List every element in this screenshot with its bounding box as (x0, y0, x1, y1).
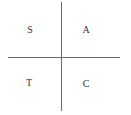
quadrant-label-bottom-left: T (23, 78, 35, 88)
quadrant-label-bottom-right: C (80, 79, 92, 89)
quadrant-label-top-right: A (80, 25, 92, 35)
quadrant-label-top-left: S (24, 25, 36, 35)
horizontal-axis (8, 57, 120, 58)
